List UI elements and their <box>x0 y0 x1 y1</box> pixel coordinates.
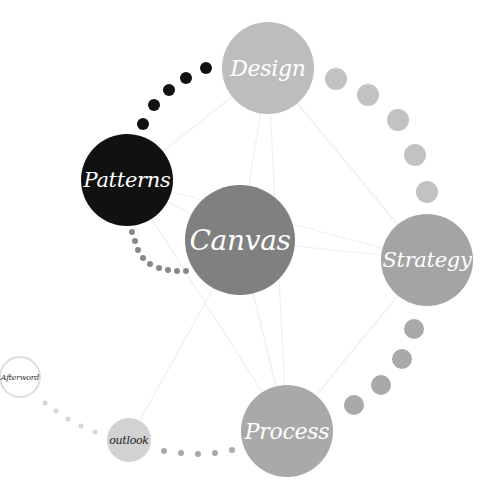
path-dot <box>163 84 175 96</box>
path-dot <box>137 118 149 130</box>
path-dot <box>404 319 424 339</box>
node-label: Process <box>245 419 329 444</box>
path-dot <box>129 229 135 235</box>
path-dot <box>344 395 364 415</box>
path-dot <box>135 247 141 253</box>
path-dot <box>140 255 146 261</box>
path-dot <box>147 261 153 267</box>
node-label: outlook <box>109 434 148 447</box>
dot-path-patterns-to-canvas <box>129 229 189 274</box>
node-strategy[interactable]: Strategy <box>381 214 473 306</box>
path-dot <box>387 109 409 131</box>
node-label: Strategy <box>382 248 471 272</box>
node-label: Patterns <box>84 168 171 192</box>
path-dot <box>174 268 180 274</box>
node-canvas[interactable]: Canvas <box>185 185 295 295</box>
path-dot <box>183 268 189 274</box>
path-dot <box>212 450 218 456</box>
path-dot <box>371 375 391 395</box>
path-dot <box>357 84 379 106</box>
node-afterword[interactable]: Afterword <box>0 356 41 398</box>
path-dot <box>200 62 212 74</box>
dot-path-design-to-strategy <box>325 68 438 203</box>
path-dot <box>325 68 347 90</box>
path-dot <box>79 424 84 429</box>
node-outlook[interactable]: outlook <box>107 418 151 462</box>
path-dot <box>93 430 98 435</box>
path-dot <box>43 401 48 406</box>
node-label: Canvas <box>189 224 290 257</box>
dot-path-afterword-to-outlook <box>43 401 98 435</box>
path-dot <box>229 447 235 453</box>
path-dot <box>161 448 167 454</box>
path-dot <box>132 238 138 244</box>
node-process[interactable]: Process <box>241 385 333 477</box>
node-patterns[interactable]: Patterns <box>81 134 173 226</box>
concept-diagram: Design Patterns Canvas Strategy Process … <box>0 0 502 496</box>
node-design[interactable]: Design <box>222 22 314 114</box>
dot-path-outlook-to-process <box>161 447 235 457</box>
path-dot <box>66 417 71 422</box>
node-label: Afterword <box>1 373 39 382</box>
path-dot <box>392 349 412 369</box>
path-dot <box>180 72 192 84</box>
path-dot <box>156 265 162 271</box>
path-dot <box>54 409 59 414</box>
path-dot <box>165 267 171 273</box>
path-dot <box>195 451 201 457</box>
path-dot <box>178 450 184 456</box>
dot-path-strategy-to-process <box>344 319 424 415</box>
node-label: Design <box>230 56 305 81</box>
path-dot <box>416 181 438 203</box>
path-dot <box>148 99 160 111</box>
dot-path-patterns-to-design <box>137 62 212 130</box>
path-dot <box>404 144 426 166</box>
